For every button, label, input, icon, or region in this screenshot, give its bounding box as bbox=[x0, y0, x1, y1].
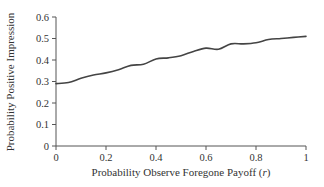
y-tick-label: 0.1 bbox=[36, 119, 49, 130]
x-tick-label: 0.6 bbox=[199, 152, 212, 163]
y-tick-label: 0.2 bbox=[36, 98, 49, 109]
x-tick-label: 0 bbox=[53, 152, 58, 163]
x-axis: 00.20.40.60.81 bbox=[53, 146, 308, 163]
x-tick-label: 0.8 bbox=[249, 152, 262, 163]
y-tick-label: 0.3 bbox=[36, 76, 49, 87]
y-axis-label: Probability Positive Impression bbox=[4, 12, 16, 151]
x-ticks: 00.20.40.60.81 bbox=[53, 146, 308, 163]
x-tick-label: 0.4 bbox=[149, 152, 163, 163]
x-tick-label: 0.2 bbox=[99, 152, 112, 163]
y-tick-label: 0.5 bbox=[36, 33, 49, 44]
y-tick-label: 0.6 bbox=[36, 12, 49, 23]
x-axis-label: Probability Observe Foregone Payoff (r) bbox=[92, 166, 271, 179]
x-tick-label: 1 bbox=[303, 152, 308, 163]
y-tick-label: 0.4 bbox=[36, 55, 50, 66]
data-line bbox=[56, 36, 306, 83]
line-chart: 00.10.20.30.40.50.6 00.20.40.60.81 Proba… bbox=[0, 0, 324, 187]
y-axis: 00.10.20.30.40.50.6 bbox=[36, 12, 56, 152]
y-ticks: 00.10.20.30.40.50.6 bbox=[36, 12, 56, 152]
y-tick-label: 0 bbox=[44, 141, 49, 152]
